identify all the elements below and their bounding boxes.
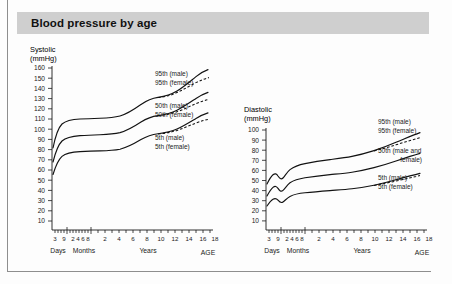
label-systolic-95th-female: 95th (female) bbox=[155, 79, 193, 87]
svg-text:120: 120 bbox=[34, 105, 45, 112]
label-diastolic-50th-both-line1: 50th (male and bbox=[378, 147, 422, 155]
xgroup-days: Days bbox=[50, 247, 66, 255]
label-systolic-5th-male: 5th (male) bbox=[155, 134, 184, 142]
xtick-months-6: 6 bbox=[295, 235, 299, 242]
svg-text:40: 40 bbox=[252, 187, 260, 194]
svg-text:80: 80 bbox=[38, 146, 46, 153]
diastolic-ylabel-line2: (mmHg) bbox=[244, 114, 271, 123]
xtick-years-18: 18 bbox=[426, 235, 433, 242]
svg-text:50: 50 bbox=[38, 177, 46, 184]
svg-text:80: 80 bbox=[252, 147, 260, 154]
xtick-years-16: 16 bbox=[200, 235, 207, 242]
xgroup-days: Days bbox=[264, 247, 280, 255]
xtick-months-2: 2 bbox=[71, 235, 75, 242]
diastolic-x-group-labels: Days Months Years AGE bbox=[264, 247, 429, 256]
svg-text:100: 100 bbox=[34, 126, 45, 133]
svg-text:90: 90 bbox=[38, 136, 46, 143]
label-diastolic-95th-female: 95th (female) bbox=[378, 127, 416, 135]
svg-text:60: 60 bbox=[252, 167, 260, 174]
xtick-days-3: 3 bbox=[53, 235, 57, 242]
diastolic-x-tick-labels: 3 9 2 4 6 8 2 4 6 8 10 12 14 16 18 bbox=[267, 235, 433, 242]
systolic-x-group-labels: Days Months Years AGE bbox=[50, 247, 215, 256]
diastolic-x-ticks bbox=[269, 227, 424, 234]
systolic-series-labels: 95th (male) 95th (female) 50th (male) 50… bbox=[155, 70, 193, 151]
svg-text:50: 50 bbox=[252, 177, 260, 184]
svg-text:150: 150 bbox=[34, 75, 45, 82]
xtick-months-4: 4 bbox=[76, 235, 80, 242]
xtick-years-10: 10 bbox=[372, 235, 379, 242]
svg-text:20: 20 bbox=[38, 207, 46, 214]
systolic-x-ticks bbox=[55, 227, 210, 234]
xtick-days-3: 3 bbox=[267, 235, 271, 242]
xtick-years-4: 4 bbox=[117, 235, 121, 242]
label-systolic-5th-female: 5th (female) bbox=[155, 143, 190, 151]
systolic-y-ticks: 160 150 140 130 120 110 100 90 80 70 bbox=[34, 64, 52, 224]
diastolic-y-ticks: 100 90 80 70 60 50 40 30 20 10 bbox=[248, 126, 266, 224]
label-systolic-50th-male: 50th (male) bbox=[155, 102, 188, 110]
xtick-years-2: 2 bbox=[103, 235, 107, 242]
title-bar: Blood pressure by age bbox=[17, 12, 429, 34]
svg-text:110: 110 bbox=[34, 115, 45, 122]
xtick-months-4: 4 bbox=[290, 235, 294, 242]
xtick-years-12: 12 bbox=[386, 235, 393, 242]
svg-text:70: 70 bbox=[252, 157, 260, 164]
xtick-years-2: 2 bbox=[317, 235, 321, 242]
xtick-years-18: 18 bbox=[212, 235, 219, 242]
xgroup-years: Years bbox=[353, 247, 371, 254]
label-diastolic-95th-male: 95th (male) bbox=[378, 118, 411, 126]
xaxis-age-label: AGE bbox=[201, 249, 216, 256]
xtick-years-16: 16 bbox=[414, 235, 421, 242]
label-diastolic-50th-both-line2: female) bbox=[400, 156, 422, 164]
svg-text:160: 160 bbox=[34, 64, 45, 71]
diastolic-ylabel-line1: Diastolic bbox=[244, 105, 272, 114]
svg-text:90: 90 bbox=[252, 137, 260, 144]
svg-text:70: 70 bbox=[38, 156, 46, 163]
xtick-years-10: 10 bbox=[158, 235, 165, 242]
xtick-months-6: 6 bbox=[81, 235, 85, 242]
xtick-days-9: 9 bbox=[276, 235, 280, 242]
systolic-x-tick-labels: 3 9 2 4 6 8 2 4 6 8 10 12 14 16 18 bbox=[53, 235, 219, 242]
svg-text:30: 30 bbox=[252, 197, 260, 204]
xgroup-years: Years bbox=[139, 247, 157, 254]
xgroup-months: Months bbox=[287, 247, 310, 254]
page-title: Blood pressure by age bbox=[31, 17, 157, 29]
chart-systolic: Systolic (mmHg) 160 150 140 130 120 110 bbox=[8, 40, 232, 270]
label-diastolic-5th-male: 5th (male) bbox=[378, 174, 407, 182]
page-background: Blood pressure by age Systolic (mmHg) 16… bbox=[0, 0, 452, 284]
label-diastolic-5th-female: 5th (female) bbox=[378, 183, 413, 191]
label-systolic-50th-female: 50th (female) bbox=[155, 111, 193, 119]
chart-diastolic: Diastolic (mmHg) 100 90 80 70 60 50 40 bbox=[226, 40, 450, 270]
svg-text:10: 10 bbox=[252, 217, 260, 224]
svg-text:140: 140 bbox=[34, 85, 45, 92]
svg-text:20: 20 bbox=[252, 207, 260, 214]
xtick-months-8: 8 bbox=[300, 235, 304, 242]
xtick-months-2: 2 bbox=[285, 235, 289, 242]
xtick-years-8: 8 bbox=[145, 235, 149, 242]
svg-text:40: 40 bbox=[38, 187, 46, 194]
systolic-ylabel-line1: Systolic bbox=[30, 45, 56, 54]
xtick-years-6: 6 bbox=[131, 235, 135, 242]
xtick-years-14: 14 bbox=[400, 235, 407, 242]
svg-text:30: 30 bbox=[38, 197, 46, 204]
xtick-years-14: 14 bbox=[186, 235, 193, 242]
label-systolic-95th-male: 95th (male) bbox=[155, 70, 188, 78]
svg-text:100: 100 bbox=[248, 126, 259, 133]
xtick-years-12: 12 bbox=[172, 235, 179, 242]
xtick-years-8: 8 bbox=[359, 235, 363, 242]
frame-bottom-border bbox=[7, 271, 431, 272]
xtick-years-6: 6 bbox=[345, 235, 349, 242]
xtick-years-4: 4 bbox=[331, 235, 335, 242]
xtick-months-8: 8 bbox=[86, 235, 90, 242]
xgroup-months: Months bbox=[73, 247, 96, 254]
xtick-days-9: 9 bbox=[62, 235, 66, 242]
xaxis-age-label: AGE bbox=[415, 249, 430, 256]
curve-systolic-5th-female bbox=[158, 119, 209, 134]
svg-text:130: 130 bbox=[34, 95, 45, 102]
systolic-ylabel-line2: (mmHg) bbox=[30, 54, 57, 63]
svg-text:10: 10 bbox=[38, 217, 46, 224]
svg-text:60: 60 bbox=[38, 166, 46, 173]
